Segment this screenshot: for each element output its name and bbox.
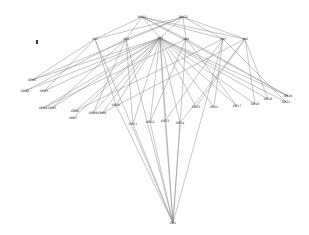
node-label: GR04 [39, 106, 48, 110]
node-m2: V02 [123, 37, 129, 41]
edge-m3-R6 [160, 38, 288, 96]
node-L7: GR07 [69, 116, 78, 120]
node-label: V01 [92, 37, 98, 41]
node-label: V05 [220, 37, 226, 41]
node-label: GR21 [282, 100, 291, 104]
node-label: GR14 [176, 121, 185, 125]
node-m4: V04 [183, 37, 189, 41]
node-label: GR05 [48, 106, 57, 110]
edge-m4-L4 [43, 39, 186, 108]
node-L8: GR08 [89, 111, 98, 115]
node-C2: GR12 [146, 120, 155, 124]
node-R6: GR20 [284, 94, 293, 98]
node-R4: GR18 [251, 102, 260, 106]
edge-m3-L1 [32, 38, 160, 80]
node-label: GR03 [40, 89, 49, 93]
edge-B-L1 [32, 17, 183, 80]
node-L6: GR06 [71, 109, 80, 113]
edge-B-m6 [183, 17, 245, 39]
node-L1: GR01 [28, 78, 37, 82]
node-label: GR07 [69, 116, 78, 120]
node-R2: GR16 [210, 105, 219, 109]
node-C3: GR13 [161, 119, 170, 123]
edge-m6-R5 [245, 39, 268, 99]
node-C1: GR11 [129, 122, 138, 126]
node-label: DRG2 [178, 15, 187, 19]
node-R7: GR21 [282, 100, 291, 104]
nodes-layer: DRG1DRG2V01V02V03V04V05V06GR01GR02GR03GR… [21, 15, 293, 225]
node-label: GR08 [89, 111, 98, 115]
edge-m3-R5 [160, 38, 268, 99]
edges-layer [25, 17, 288, 223]
node-label: GR09 [98, 111, 107, 115]
node-L4: GR04 [39, 106, 48, 110]
node-label: V02 [123, 37, 129, 41]
edge-Z-m1 [95, 39, 173, 223]
node-label: V04 [183, 37, 189, 41]
node-L5: GR05 [48, 106, 57, 110]
node-B: DRG2 [178, 15, 187, 19]
edge-Z-m5 [173, 39, 223, 223]
node-label: GR02 [21, 89, 30, 93]
edge-m5-R7 [223, 39, 286, 102]
node-A: DRG1 [137, 15, 146, 19]
node-label: GR20 [284, 94, 293, 98]
network-diagram: DRG1DRG2V01V02V03V04V05V06GR01GR02GR03GR… [0, 0, 309, 235]
edge-m1-L3 [44, 39, 95, 91]
node-C4: GR14 [176, 121, 185, 125]
node-label: ZN1 [170, 221, 177, 225]
node-label: GR11 [129, 122, 138, 126]
edge-m4-R3 [186, 39, 237, 106]
node-R1: GR15 [192, 105, 201, 109]
node-label: V06 [242, 37, 248, 41]
node-R3: GR17 [233, 104, 242, 108]
node-label: GR10 [112, 103, 121, 107]
node-label: GR06 [71, 109, 80, 113]
edge-m3-L4 [43, 38, 160, 108]
node-label: GR16 [210, 105, 219, 109]
isolated-node-marker [36, 40, 38, 44]
node-L3: GR03 [40, 89, 49, 93]
graph-svg: DRG1DRG2V01V02V03V04V05V06GR01GR02GR03GR… [0, 0, 309, 235]
edge-m1-L1 [32, 39, 95, 80]
node-L2: GR02 [21, 89, 30, 93]
node-Z: ZN1 [170, 221, 177, 225]
node-m5: V05 [220, 37, 226, 41]
node-label: GR01 [28, 78, 37, 82]
node-label: GR13 [161, 119, 170, 123]
edge-m3-R7 [160, 38, 286, 102]
edge-m4-C2 [150, 39, 186, 122]
node-L10: GR10 [112, 103, 121, 107]
node-label: GR17 [233, 104, 242, 108]
node-label: GR18 [251, 102, 260, 106]
edge-A-R6 [142, 17, 288, 96]
node-m3: V03 [157, 36, 163, 40]
node-L9: GR09 [98, 111, 107, 115]
edge-B-m5 [183, 17, 223, 39]
node-label: GR19 [264, 97, 273, 101]
node-label: V03 [157, 36, 163, 40]
edge-Z-C4 [173, 123, 180, 223]
node-label: GR15 [192, 105, 201, 109]
node-iso [36, 40, 38, 44]
edge-B-m1 [95, 17, 183, 39]
node-label: DRG1 [137, 15, 146, 19]
edge-m3-R4 [160, 38, 255, 104]
node-m6: V06 [242, 37, 248, 41]
node-R5: GR19 [264, 97, 273, 101]
node-label: GR12 [146, 120, 155, 124]
node-m1: V01 [92, 37, 98, 41]
edge-m6-R4 [245, 39, 255, 104]
